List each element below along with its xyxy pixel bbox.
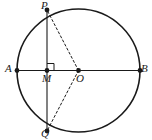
vertex-dot-a [15,68,20,73]
radius-OQ [47,71,79,132]
vertex-label-p: P [41,0,48,11]
vertex-label-a: A [5,63,12,74]
geometry-figure: ABOMPQ [0,0,152,140]
vertex-label-o: O [76,73,84,84]
radius-OP [47,10,79,71]
vertex-label-q: Q [41,128,49,139]
vertex-label-m: M [42,73,51,84]
geometry-canvas [0,0,152,140]
vertex-label-b: B [141,63,148,74]
